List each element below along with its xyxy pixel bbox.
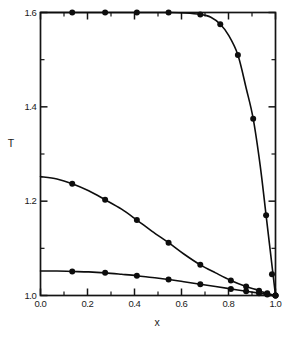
data-point-marker [197,281,203,287]
data-point-marker [166,240,172,246]
data-point-marker [269,271,275,277]
data-point-marker [250,116,256,122]
data-point-marker [166,10,172,16]
data-point-marker [102,10,108,16]
data-point-marker [256,290,262,296]
x-tick-label: 0.6 [175,298,187,309]
data-point-marker [217,21,223,27]
y-tick-label: 1.6 [24,7,36,18]
data-point-marker [197,262,203,268]
x-tick-label: 0.4 [128,298,140,309]
data-point-marker [264,292,270,298]
x-axis-tick-labels: 0.00.20.40.60.81.0 [34,298,281,309]
data-point-marker [166,276,172,282]
figure-panel: 0.00.20.40.60.81.0 1.01.21.41.6 x T [0,0,282,337]
data-point-marker [69,181,75,187]
x-tick-label: 1.0 [269,298,281,309]
data-point-marker [243,288,249,294]
data-point-marker [69,10,75,16]
data-point-marker [102,197,108,203]
data-point-marker [134,217,140,223]
x-axis-label: x [154,316,160,328]
data-point-marker [228,286,234,292]
chart-canvas: 0.00.20.40.60.81.0 1.01.21.41.6 x T [0,0,282,337]
x-tick-label: 0.2 [81,298,93,309]
data-point-marker [235,52,241,58]
data-point-marker [134,10,140,16]
data-point-marker [69,268,75,274]
data-point-markers [69,10,278,299]
data-point-marker [134,273,140,279]
data-point-marker [102,270,108,276]
y-axis-label: T [8,137,15,149]
data-point-marker [197,11,203,17]
data-point-marker [228,277,234,283]
y-tick-label: 1.4 [24,101,36,112]
y-axis-tick-labels: 1.01.21.41.6 [24,7,36,301]
data-point-marker [273,293,279,299]
y-tick-label: 1.2 [24,195,36,206]
x-tick-label: 0.8 [222,298,234,309]
data-point-marker [263,212,269,218]
y-tick-label: 1.0 [24,290,36,301]
